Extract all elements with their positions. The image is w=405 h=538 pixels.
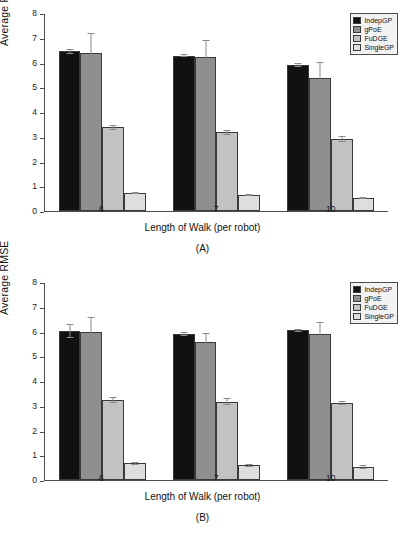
bar-singlegp [124, 193, 146, 211]
bar-slot [102, 14, 124, 211]
bar-gpoe [309, 78, 331, 211]
x-axis-tick-label: 7 [196, 473, 236, 483]
y-axis-tick: 1 [18, 187, 44, 188]
legend-label: gPoE [364, 26, 381, 34]
y-axis-tick-mark [40, 432, 44, 433]
y-axis-tick: 8 [18, 14, 44, 15]
bar-group-bars [59, 283, 146, 480]
bar-group [159, 283, 273, 480]
error-bar [113, 397, 114, 403]
y-axis-tick-label: 8 [32, 277, 37, 288]
y-axis-tick-label: 8 [32, 8, 37, 19]
y-axis-tick-mark [40, 333, 44, 334]
error-bar [249, 194, 250, 196]
legend-item: gPoE [353, 294, 394, 303]
error-bar [249, 464, 250, 467]
y-axis-tick-label: 5 [32, 351, 37, 362]
x-axis-tick-label: 10 [311, 473, 351, 483]
bar-slot [238, 283, 260, 480]
y-axis-tick: 1 [18, 456, 44, 457]
y-axis-tick-label: 3 [32, 401, 37, 412]
error-bar [183, 54, 184, 57]
bar-slot [173, 14, 195, 211]
error-bar [205, 40, 206, 75]
y-axis-tick: 5 [18, 88, 44, 89]
y-axis-tick-mark [40, 14, 44, 15]
legend-label: IndepGP [364, 17, 392, 25]
x-axis-tick-label: 6 [81, 204, 121, 214]
y-axis-tick: 3 [18, 407, 44, 408]
y-axis-tick-label: 2 [32, 426, 37, 437]
chart-panel-a: Average RMSE 012345678 IndepGPgPoEFuDGES… [0, 0, 405, 269]
legend-swatch-icon [353, 17, 361, 24]
y-axis-tick: 4 [18, 113, 44, 114]
bar-singlegp [124, 463, 146, 480]
legend-label: FuDGE [364, 304, 387, 312]
bar-group [45, 283, 159, 480]
legend-label: IndepGP [364, 286, 392, 294]
bar-fudge [216, 132, 238, 211]
error-bar [134, 462, 135, 465]
y-axis-tick-mark [40, 187, 44, 188]
legend-swatch-icon [353, 44, 361, 51]
error-bar [91, 33, 92, 73]
y-axis-tick: 3 [18, 138, 44, 139]
legend-item: IndepGP [353, 16, 394, 25]
y-axis-title-b: Average RMSE [0, 240, 10, 315]
error-bar [227, 130, 228, 135]
x-axis-title-b: Length of Walk (per robot) [0, 491, 405, 502]
error-bar [319, 62, 320, 94]
y-axis-tick-label: 0 [32, 475, 37, 486]
bar-slot [173, 283, 195, 480]
y-axis-tick-label: 3 [32, 132, 37, 143]
bar-group-bars [59, 14, 146, 211]
y-axis-tick-mark [40, 212, 44, 213]
error-bar [298, 329, 299, 331]
bar-indepgp [173, 56, 195, 211]
bar-groups-a [45, 14, 388, 211]
y-axis-tick-label: 6 [32, 327, 37, 338]
y-axis-tick-mark [40, 113, 44, 114]
bar-slot [216, 14, 238, 211]
y-axis-tick-label: 7 [32, 33, 37, 44]
error-bar [183, 332, 184, 335]
y-axis-tick: 8 [18, 283, 44, 284]
y-axis-tick-mark [40, 308, 44, 309]
bar-slot [331, 283, 353, 480]
y-axis-tick: 2 [18, 432, 44, 433]
legend-item: SingleGP [353, 43, 394, 52]
y-axis-tick-mark [40, 283, 44, 284]
y-axis-tick-label: 0 [32, 206, 37, 217]
y-axis-tick-mark [40, 163, 44, 164]
y-axis-tick-label: 5 [32, 82, 37, 93]
error-bar [341, 136, 342, 142]
y-axis-tick-mark [40, 64, 44, 65]
bar-gpoe [309, 334, 331, 480]
bar-singlegp [353, 467, 375, 480]
bar-indepgp [287, 330, 309, 480]
legend-item: FuDGE [353, 34, 394, 43]
y-axis-tick-label: 4 [32, 107, 37, 118]
bar-slot [287, 14, 309, 211]
bar-slot [124, 283, 146, 480]
y-axis-tick-label: 2 [32, 157, 37, 168]
chart-panel-b: Average RMSE 012345678 IndepGPgPoEFuDGES… [0, 269, 405, 538]
bar-slot [216, 283, 238, 480]
legend-swatch-icon [353, 313, 361, 320]
y-axis-tick: 5 [18, 357, 44, 358]
legend-swatch-icon [353, 26, 361, 33]
bar-groups-b [45, 283, 388, 480]
y-axis-tick: 4 [18, 382, 44, 383]
bar-group [159, 14, 273, 211]
legend-label: FuDGE [364, 35, 387, 43]
legend-a: IndepGPgPoEFuDGESingleGP [350, 13, 398, 55]
bar-group-bars [173, 283, 260, 480]
x-axis-tick-label: 6 [81, 473, 121, 483]
y-axis-tick-label: 7 [32, 302, 37, 313]
bar-indepgp [59, 331, 81, 480]
bar-slot [124, 14, 146, 211]
legend-swatch-icon [353, 286, 361, 293]
bar-fudge [331, 139, 353, 211]
bar-slot [309, 14, 331, 211]
legend-swatch-icon [353, 304, 361, 311]
